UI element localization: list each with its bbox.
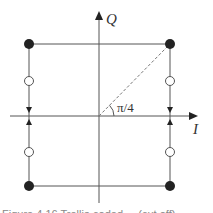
hollow-point bbox=[25, 77, 34, 86]
filled-point bbox=[24, 39, 34, 49]
q-axis-label: Q bbox=[106, 11, 117, 27]
q-axis-arrow-icon bbox=[95, 11, 103, 20]
filled-point bbox=[165, 181, 175, 191]
i-axis-arrow-icon bbox=[189, 112, 198, 120]
hollow-point bbox=[166, 148, 175, 157]
down-arrow-icon bbox=[167, 107, 173, 113]
up-arrow-icon bbox=[167, 119, 173, 125]
down-arrow-icon bbox=[26, 107, 32, 113]
hollow-point bbox=[25, 148, 34, 157]
angle-arc bbox=[110, 105, 114, 116]
up-arrow-icon bbox=[26, 119, 32, 125]
figure-caption: Figure 4.16 Trellis-coded ... (cut off) bbox=[2, 208, 175, 213]
filled-point bbox=[24, 181, 34, 191]
hollow-point bbox=[166, 77, 175, 86]
i-axis-label: I bbox=[192, 121, 199, 137]
filled-point bbox=[165, 39, 175, 49]
angle-label: π/4 bbox=[117, 100, 134, 115]
constellation-diagram: Q I π/4 Figure 4.16 Trellis-coded ... (c… bbox=[0, 0, 213, 213]
